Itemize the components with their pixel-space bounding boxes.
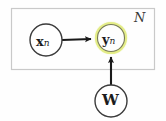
node-yn-label: yn <box>102 31 115 47</box>
plate-count-label: N <box>134 10 145 25</box>
node-yn-variable: y <box>102 32 110 47</box>
diagram-canvas: xn yn W N <box>0 0 166 121</box>
node-xn-label: xn <box>36 33 50 49</box>
edge-xn-to-yn <box>62 39 91 40</box>
node-w-variable: W <box>102 91 119 109</box>
node-xn-subscript: n <box>44 38 50 48</box>
node-w-label: W <box>102 93 119 108</box>
node-yn-subscript: n <box>110 36 116 46</box>
node-xn-variable: x <box>36 34 44 49</box>
